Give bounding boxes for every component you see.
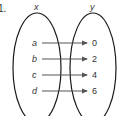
domain-element-b: b — [32, 54, 37, 64]
mapping-diagram: 1. x y a b c d 0 2 4 6 — [0, 0, 122, 116]
problem-number: 1. — [0, 3, 6, 14]
domain-set-ellipse — [13, 13, 61, 116]
domain-element-d: d — [32, 86, 38, 96]
domain-set-title: x — [33, 2, 39, 12]
range-element-6: 6 — [92, 86, 97, 96]
domain-element-c: c — [32, 70, 37, 80]
range-element-0: 0 — [92, 38, 97, 48]
range-element-4: 4 — [92, 70, 97, 80]
range-set-title: y — [89, 2, 95, 12]
domain-element-a: a — [32, 38, 37, 48]
range-element-2: 2 — [92, 54, 97, 64]
range-set-ellipse — [70, 13, 116, 116]
